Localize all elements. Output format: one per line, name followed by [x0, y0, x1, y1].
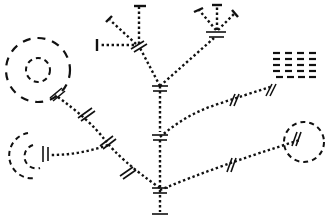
right-circle-branch	[160, 122, 324, 190]
upper-left-hub	[97, 6, 160, 86]
dash-grid-branch	[160, 84, 276, 137]
left-small-circle-branch	[9, 133, 108, 178]
tree-diagram	[0, 0, 334, 216]
trunk	[152, 86, 168, 216]
left-big-circle-branch	[6, 38, 160, 188]
upper-right-hub	[160, 5, 238, 86]
dash-grid	[273, 53, 316, 77]
